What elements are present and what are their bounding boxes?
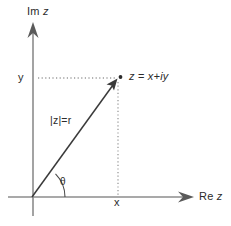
imaginary-axis-label-prefix: Im [27,5,40,17]
theta-label: θ [60,177,66,187]
imaginary-axis-group [28,22,39,216]
real-axis-label-var: z [217,190,223,202]
imaginary-axis-label-var: z [43,5,49,17]
real-axis-label-prefix: Re [199,190,213,202]
real-axis-group [8,192,194,203]
modulus-vector-arrowhead-icon [107,79,118,91]
point-label-rhs: x+iy [148,70,169,82]
real-axis-label: Re z [199,191,222,202]
complex-plane-svg [0,0,231,226]
x-tick-label: x [114,197,120,208]
imaginary-axis-label: Im z [27,6,49,17]
point-label-z-equals-x-plus-iy: z = x+iy [129,71,169,82]
modulus-vector-group [32,79,118,198]
modulus-label: |z|=r [50,115,71,126]
point-marker-z [119,75,123,79]
modulus-vector-line [32,85,113,197]
complex-plane-figure: Im z Re z z = x+iy |z|=r y x θ [0,0,231,226]
point-label-equals: = [135,70,148,82]
y-tick-label: y [18,72,24,83]
